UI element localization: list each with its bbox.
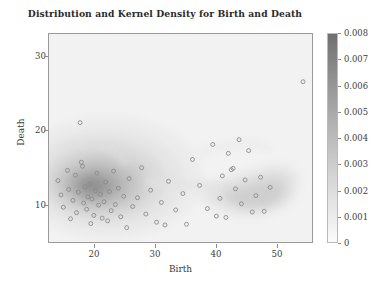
scatter-point	[80, 164, 84, 168]
scatter-point	[90, 197, 94, 201]
scatter-point	[61, 205, 65, 209]
colorbar-tick-label: 0.003	[344, 159, 368, 169]
scatter-point	[69, 217, 73, 221]
scatter-point	[155, 220, 159, 224]
scatter-point	[198, 183, 202, 187]
scatter-point	[224, 215, 228, 219]
ytick-mark-10	[44, 205, 48, 206]
colorbar-tick-label: 0.008	[344, 28, 368, 38]
scatter-point	[163, 223, 167, 227]
scatter-point	[149, 188, 153, 192]
scatter-point	[100, 216, 104, 220]
scatter-point	[73, 173, 77, 177]
scatter-point	[181, 192, 185, 196]
scatter-point	[86, 195, 90, 199]
xtick-label-30: 30	[140, 249, 170, 259]
scatter-point	[211, 142, 215, 146]
colorbar-gradient	[327, 33, 338, 243]
scatter-point	[94, 189, 98, 193]
scatter-point	[205, 207, 209, 211]
scatter-point	[239, 202, 243, 206]
scatter-point	[144, 212, 148, 216]
colorbar-tick-label: 0.006	[344, 81, 368, 91]
scatter-point	[268, 185, 272, 189]
scatter-point	[113, 203, 117, 207]
scatter-point	[116, 186, 120, 190]
colorbar-tick-label: 0.001	[344, 212, 368, 222]
scatter-point	[174, 208, 178, 212]
scatter-point	[83, 185, 87, 189]
chart-title: Distribution and Kernel Density for Birt…	[0, 8, 330, 19]
ytick-label-30: 30	[20, 51, 46, 61]
ytick-mark-20	[44, 130, 48, 131]
scatter-point	[259, 175, 263, 179]
scatter-point	[107, 190, 111, 194]
scatter-point	[119, 215, 123, 219]
scatter-point	[127, 177, 131, 181]
ytick-mark-30	[44, 56, 48, 57]
colorbar-tick-mark	[338, 243, 341, 244]
scatter-point	[75, 211, 79, 215]
scatter-point	[250, 210, 254, 214]
scatter-point	[78, 121, 82, 125]
scatter-point	[237, 138, 241, 142]
scatter-point	[167, 179, 171, 183]
colorbar-tick-mark	[338, 86, 341, 87]
colorbar-tick-label: 0.004	[344, 133, 368, 143]
scatter-point	[254, 194, 258, 198]
scatter-point	[301, 80, 305, 84]
xtick-label-40: 40	[201, 249, 231, 259]
scatter-point	[218, 196, 222, 200]
scatter-point	[243, 178, 247, 182]
scatter-point	[89, 222, 93, 226]
scatter-point	[95, 171, 99, 175]
xtick-mark-40	[216, 244, 217, 248]
colorbar-tick-label: 0.002	[344, 186, 368, 196]
scatter-point	[112, 169, 116, 173]
xtick-mark-50	[277, 244, 278, 248]
scatter-point	[97, 203, 101, 207]
scatter-point	[92, 213, 96, 217]
scatter-point	[131, 205, 135, 209]
scatter-point	[98, 192, 102, 196]
scatter-point	[247, 149, 251, 153]
scatter-point	[226, 151, 230, 155]
scatter-point	[88, 182, 92, 186]
colorbar: 00.0010.0020.0030.0040.0050.0060.0070.00…	[327, 33, 338, 243]
xtick-mark-20	[94, 244, 95, 248]
scatter-point	[76, 190, 80, 194]
scatter-point	[67, 188, 71, 192]
scatter-point	[59, 193, 63, 197]
x-axis-label: Birth	[48, 264, 313, 274]
colorbar-tick-mark	[338, 217, 341, 218]
scatter-point	[135, 196, 139, 200]
colorbar-tick-mark	[338, 59, 341, 60]
scatter-point	[214, 214, 218, 218]
y-axis-label: Death	[16, 102, 26, 162]
scatter-point	[66, 168, 70, 172]
xtick-label-50: 50	[262, 249, 292, 259]
xtick-label-20: 20	[79, 249, 109, 259]
scatter-point	[122, 194, 126, 198]
plot-area	[48, 33, 313, 243]
scatter-point	[220, 174, 224, 178]
scatter-point	[71, 198, 75, 202]
scatter-point	[104, 180, 108, 184]
scatter-point	[234, 187, 238, 191]
colorbar-tick-mark	[338, 112, 341, 113]
scatter-point	[82, 201, 86, 205]
scatter-point	[262, 209, 266, 213]
scatter-point	[102, 200, 106, 204]
colorbar-tick-label: 0.007	[344, 54, 368, 64]
scatter-point	[184, 222, 188, 226]
scatter-point	[79, 160, 83, 164]
scatter-point	[109, 209, 113, 213]
scatter-point	[106, 219, 110, 223]
scatter-point	[85, 207, 89, 211]
scatter-points	[49, 34, 312, 242]
xtick-mark-30	[155, 244, 156, 248]
chart-figure: Distribution and Kernel Density for Birt…	[0, 0, 377, 291]
scatter-point	[190, 158, 194, 162]
colorbar-tick-label: 0.005	[344, 107, 368, 117]
scatter-point	[125, 226, 129, 230]
